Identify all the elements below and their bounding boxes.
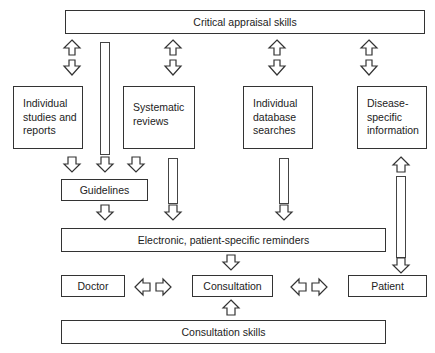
bidirectional-arrow-icon xyxy=(135,278,175,296)
consultation-skills-label: Consultation skills xyxy=(181,326,265,338)
down-arrow-icon xyxy=(96,205,114,221)
disease-specific-information-box: Disease- specific information xyxy=(357,86,427,149)
consultation-box: Consultation xyxy=(192,275,273,297)
flow-bar xyxy=(279,158,289,204)
patient-specific-reminders-label: Electronic, patient-specific reminders xyxy=(138,234,310,246)
patient-specific-reminders-box: Electronic, patient-specific reminders xyxy=(61,228,386,252)
consultation-skills-box: Consultation skills xyxy=(61,320,386,344)
systematic-reviews-label: Systematic reviews xyxy=(133,101,184,128)
database-searches-label: Individual database searches xyxy=(253,97,297,138)
down-arrow-icon xyxy=(127,157,145,173)
down-arrow-icon xyxy=(392,258,410,274)
disease-specific-information-label: Disease- specific information xyxy=(367,97,419,138)
flow-bar xyxy=(100,42,110,155)
doctor-label: Doctor xyxy=(78,280,109,292)
bidirectional-arrow-icon xyxy=(268,40,286,76)
up-arrow-icon xyxy=(222,300,240,316)
guidelines-label: Guidelines xyxy=(80,184,130,196)
bidirectional-arrow-icon xyxy=(164,40,182,76)
individual-studies-box: Individual studies and reports xyxy=(13,86,83,149)
flow-bar xyxy=(168,158,178,204)
down-arrow-icon xyxy=(164,205,182,221)
flow-bar xyxy=(396,176,406,258)
consultation-label: Consultation xyxy=(203,280,261,292)
down-arrow-icon xyxy=(63,157,81,173)
bidirectional-arrow-icon xyxy=(291,278,331,296)
patient-label: Patient xyxy=(371,280,404,292)
up-arrow-icon xyxy=(392,157,410,173)
doctor-box: Doctor xyxy=(61,275,125,297)
patient-box: Patient xyxy=(348,275,427,297)
down-arrow-icon xyxy=(275,205,293,221)
down-arrow-icon xyxy=(96,157,114,173)
down-arrow-icon xyxy=(222,255,240,271)
individual-studies-label: Individual studies and reports xyxy=(23,97,77,138)
database-searches-box: Individual database searches xyxy=(243,86,313,149)
critical-appraisal-skills-label: Critical appraisal skills xyxy=(193,16,296,28)
guidelines-box: Guidelines xyxy=(61,179,148,201)
bidirectional-arrow-icon xyxy=(360,40,378,76)
critical-appraisal-skills-box: Critical appraisal skills xyxy=(65,10,425,34)
systematic-reviews-box: Systematic reviews xyxy=(123,86,195,149)
bidirectional-arrow-icon xyxy=(63,40,81,76)
